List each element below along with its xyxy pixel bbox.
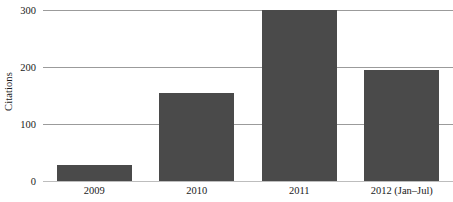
x-category-label-2: 2011 <box>248 185 351 196</box>
x-category-label-3: 2012 (Jan–Jul) <box>351 185 453 196</box>
bar-2011 <box>262 10 337 181</box>
x-axis-category-labels: 2009201020112012 (Jan–Jul) <box>0 182 453 202</box>
plot-area: 0100200300 <box>0 0 453 182</box>
bars-group <box>0 0 453 182</box>
bar-2010 <box>159 93 234 181</box>
bar-chart: Citations 0100200300 2009201020112012 (J… <box>0 0 453 202</box>
bar-2009 <box>57 165 132 181</box>
x-category-label-1: 2010 <box>146 185 249 196</box>
x-category-label-0: 2009 <box>43 185 146 196</box>
bar-2012-jan-jul <box>364 70 439 181</box>
